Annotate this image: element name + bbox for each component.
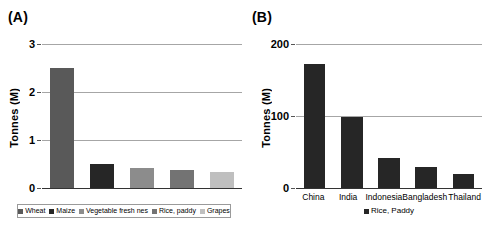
bar-wheat[interactable] bbox=[50, 68, 75, 188]
panel-a-ytick-3: 3 bbox=[29, 38, 35, 50]
panel-b-bar-slot bbox=[333, 44, 370, 188]
panel-b-bars bbox=[296, 44, 482, 188]
legend-label: Rice, paddy bbox=[159, 207, 196, 215]
panel-a-tick-mark-2 bbox=[37, 92, 41, 93]
legend-item-vegetable-fresh-nes[interactable]: Vegetable fresh nes bbox=[79, 207, 148, 215]
legend-label: Maize bbox=[56, 207, 75, 215]
xlabel-thailand: Thailand bbox=[447, 192, 482, 202]
panel-b-tick-mark-100 bbox=[291, 116, 295, 117]
panel-b-ytick-200: 200 bbox=[271, 38, 289, 50]
panel-a-ytick-2: 2 bbox=[29, 86, 35, 98]
panel-a-bar-slot bbox=[122, 44, 162, 188]
panel-b-ytick-100: 100 bbox=[271, 110, 289, 122]
legend-swatch-icon bbox=[200, 209, 205, 214]
panel-b-plot-area: 200 100 0 bbox=[296, 44, 482, 189]
panel-b-tick-mark-0 bbox=[291, 188, 295, 189]
legend-label: Vegetable fresh nes bbox=[86, 207, 148, 215]
bar-maize[interactable] bbox=[90, 164, 115, 188]
panel-b-tick-mark-200 bbox=[291, 44, 295, 45]
bar-grapes[interactable] bbox=[210, 172, 235, 188]
panel-a-legend: Wheat Maize Vegetable fresh nes Rice, pa… bbox=[17, 204, 231, 218]
bar-indonesia[interactable] bbox=[378, 158, 400, 188]
panel-a-y-axis-title: Tonnes (M) bbox=[8, 88, 20, 148]
legend-item-rice-paddy[interactable]: Rice, paddy bbox=[152, 207, 196, 215]
bar-vegetable-fresh-nes[interactable] bbox=[130, 168, 155, 188]
panel-a-ytick-0: 0 bbox=[29, 182, 35, 194]
panel-a-bar-slot bbox=[82, 44, 122, 188]
panel-b-ytick-0: 0 bbox=[283, 182, 289, 194]
panel-a-tick-mark-3 bbox=[37, 44, 41, 45]
panel-a-bar-slot bbox=[202, 44, 242, 188]
panel-a-plot-area: 3 2 1 0 bbox=[42, 44, 242, 189]
two-panel-bar-chart-figure: (A) Tonnes (M) 3 2 1 0 bbox=[0, 0, 488, 233]
panel-b-legend: Rice, Paddy bbox=[296, 207, 482, 215]
xlabel-india: India bbox=[331, 192, 366, 202]
legend-label: Wheat bbox=[25, 207, 45, 215]
legend-label: Grapes bbox=[207, 207, 230, 215]
xlabel-bangladesh: Bangladesh bbox=[402, 192, 447, 202]
bar-india[interactable] bbox=[341, 117, 363, 188]
panel-b-x-axis-labels: China India Indonesia Bangladesh Thailan… bbox=[296, 192, 482, 202]
legend-item-wheat[interactable]: Wheat bbox=[18, 207, 45, 215]
panel-a-tick-mark-0 bbox=[37, 188, 41, 189]
legend-swatch-icon bbox=[79, 209, 84, 214]
panel-b-bar-slot bbox=[445, 44, 482, 188]
panel-b-bar-slot bbox=[296, 44, 333, 188]
legend-swatch-icon bbox=[364, 209, 369, 214]
panel-a-bars bbox=[42, 44, 242, 188]
legend-item-grapes[interactable]: Grapes bbox=[200, 207, 230, 215]
legend-swatch-icon bbox=[18, 209, 23, 214]
bar-rice-paddy[interactable] bbox=[170, 170, 195, 188]
xlabel-china: China bbox=[296, 192, 331, 202]
legend-item-maize[interactable]: Maize bbox=[49, 207, 75, 215]
bar-china[interactable] bbox=[304, 64, 326, 188]
panel-b-bar-slot bbox=[408, 44, 445, 188]
panel-b: (B) Tonnes (M) 200 100 0 bbox=[244, 0, 488, 233]
legend-swatch-icon bbox=[152, 209, 157, 214]
panel-b-x-axis bbox=[296, 188, 482, 189]
panel-a: (A) Tonnes (M) 3 2 1 0 bbox=[0, 0, 244, 233]
panel-a-x-axis bbox=[42, 188, 242, 189]
bar-bangladesh[interactable] bbox=[415, 167, 437, 188]
panel-a-bar-slot bbox=[42, 44, 82, 188]
panel-a-tick-mark-1 bbox=[37, 140, 41, 141]
panel-b-label: (B) bbox=[252, 9, 272, 25]
panel-b-bar-slot bbox=[370, 44, 407, 188]
panel-a-ytick-1: 1 bbox=[29, 134, 35, 146]
panel-a-label: (A) bbox=[8, 9, 28, 25]
bar-thailand[interactable] bbox=[453, 174, 475, 188]
legend-label: Rice, Paddy bbox=[371, 207, 414, 215]
panel-a-bar-slot bbox=[162, 44, 202, 188]
legend-swatch-icon bbox=[49, 209, 54, 214]
legend-item-rice-paddy[interactable]: Rice, Paddy bbox=[364, 207, 414, 215]
xlabel-indonesia: Indonesia bbox=[365, 192, 402, 202]
